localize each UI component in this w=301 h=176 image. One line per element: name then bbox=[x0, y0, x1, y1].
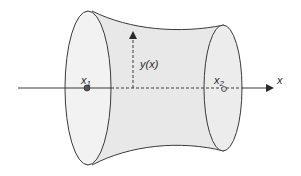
label-x-axis: x bbox=[276, 74, 283, 86]
label-yx: y(x) bbox=[139, 58, 159, 70]
catenoid-diagram: y(x) x1 x2 x bbox=[0, 0, 301, 176]
